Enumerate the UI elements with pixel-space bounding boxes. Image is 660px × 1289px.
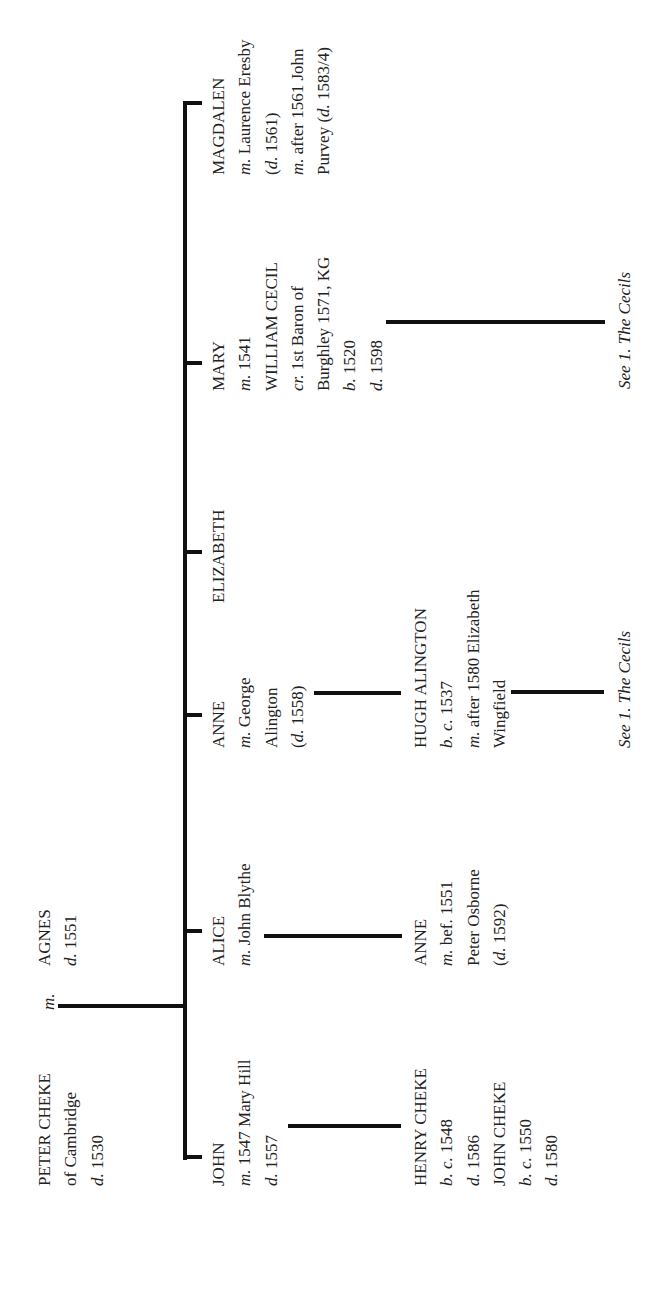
entry-text: 1598 <box>367 340 386 378</box>
entry-line: (d. 1561) <box>259 40 285 175</box>
entry-line: m. after 1561 John <box>285 40 311 175</box>
entry-line: MAGDALEN <box>206 40 232 175</box>
entry-text: Purvey ( <box>314 117 333 175</box>
entry-text: WILLIAM CECIL <box>262 262 281 391</box>
person-mary: MARYm. 1541WILLIAM CECILcr. 1st Baron of… <box>206 257 390 391</box>
person-agnes: AGNESd. 1551 <box>32 909 85 966</box>
entry-text: 1592) <box>490 904 509 948</box>
tick-john <box>183 1155 202 1159</box>
entry-line: AGNES <box>32 909 58 966</box>
abbrev-text: m. <box>437 949 456 966</box>
entry-text: 1548 <box>437 1119 456 1157</box>
entry-text: Peter Osborne <box>464 869 483 966</box>
abbrev-text: d. <box>490 948 509 961</box>
entry-text: ANNE <box>209 701 228 748</box>
entry-line: d. 1598 <box>364 257 390 391</box>
abbrev-text: d. <box>367 378 386 391</box>
entry-text: 1st Baron of <box>288 286 307 374</box>
entry-line: HENRY CHEKE <box>408 1068 434 1186</box>
entry-text: 1586 <box>464 1135 483 1173</box>
entry-line: d. 1580 <box>539 1068 565 1186</box>
entry-line: ALICE <box>206 864 232 966</box>
entry-line: m. George <box>232 677 258 748</box>
reference-see-cecils-hugh[interactable]: See 1. The Cecils <box>612 631 638 748</box>
entry-line: m. John Blythe <box>232 864 258 966</box>
descent-line-hugh <box>511 690 604 694</box>
tick-elizabeth <box>183 550 202 554</box>
sibling-spine <box>183 101 187 1160</box>
entry-text: of Cambridge <box>61 1092 80 1186</box>
entry-line: b. 1520 <box>337 257 363 391</box>
entry-text: 1550 <box>516 1119 535 1157</box>
abbrev-text: d. <box>314 104 333 117</box>
entry-text: PETER CHEKE <box>35 1073 54 1186</box>
reference-see-cecils-mary[interactable]: See 1. The Cecils <box>612 272 638 389</box>
entry-text: after 1561 John <box>288 48 307 158</box>
entry-text: George <box>235 677 254 731</box>
entry-text: ANNE <box>411 919 430 966</box>
entry-text: 1580 <box>542 1135 561 1173</box>
entry-text: John Blythe <box>235 864 254 950</box>
abbrev-text: m. <box>235 158 254 175</box>
entry-line: ELIZABETH <box>206 510 232 603</box>
entry-line: m. bef. 1551 <box>434 869 460 966</box>
entry-line: Burghley 1571, KG <box>311 257 337 391</box>
person-john: JOHNm. 1547 Mary Hilld. 1557 <box>206 1059 285 1186</box>
entry-line: d. 1551 <box>58 909 84 966</box>
abbrev-text: d. <box>61 953 80 966</box>
entry-line: Alington <box>259 677 285 748</box>
entry-text: HENRY CHEKE <box>411 1068 430 1186</box>
marriage-label: m. <box>39 993 59 1010</box>
abbrev-text: b. c. <box>437 1157 456 1186</box>
entry-text: 1520 <box>340 340 359 378</box>
entry-line: Purvey (d. 1583/4) <box>311 40 337 175</box>
person-henry-and-john-cheke: HENRY CHEKEb. c. 1548d. 1586JOHN CHEKEb.… <box>408 1068 566 1186</box>
entry-line: m. Laurence Eresby <box>232 40 258 175</box>
entry-text: JOHN <box>209 1143 228 1186</box>
entry-line: m. after 1580 Elizabeth <box>461 589 487 748</box>
entry-text: 1558) <box>288 686 307 730</box>
entry-line: Peter Osborne <box>461 869 487 966</box>
entry-text: 1547 Mary Hill <box>235 1059 254 1169</box>
descent-line-anne <box>314 691 401 695</box>
entry-line: b. c. 1548 <box>434 1068 460 1186</box>
entry-text: 1583/4) <box>314 47 333 104</box>
abbrev-text: d. <box>464 1173 483 1186</box>
descent-line-mary <box>386 320 605 324</box>
entry-text: 1551 <box>61 915 80 953</box>
entry-text: MAGDALEN <box>209 78 228 175</box>
entry-text: Burghley 1571, KG <box>314 257 333 391</box>
entry-line: m. 1547 Mary Hill <box>232 1059 258 1186</box>
abbrev-text: b. c. <box>516 1157 535 1186</box>
entry-text: AGNES <box>35 909 54 966</box>
entry-line: ANNE <box>206 677 232 748</box>
abbrev-text: d. <box>262 1173 281 1186</box>
entry-line: JOHN <box>206 1059 232 1186</box>
entry-line: (d. 1558) <box>285 677 311 748</box>
abbrev-text: b. <box>340 378 359 391</box>
entry-text: MARY <box>209 341 228 391</box>
entry-text: ALICE <box>209 916 228 966</box>
entry-text: ELIZABETH <box>209 510 228 603</box>
entry-text: bef. 1551 <box>437 881 456 949</box>
entry-line: MARY <box>206 257 232 391</box>
entry-text: 1561) <box>262 113 281 157</box>
person-elizabeth: ELIZABETH <box>206 510 232 603</box>
entry-text: 1541 <box>235 336 254 374</box>
person-peter-cheke: PETER CHEKEof Cambridged. 1530 <box>32 1073 111 1186</box>
abbrev-text: d. <box>262 157 281 170</box>
descent-line-alice <box>264 934 402 938</box>
entry-line: b. c. 1537 <box>434 589 460 748</box>
abbrev-text: d. <box>542 1173 561 1186</box>
person-hugh-alington: HUGH ALINGTONb. c. 1537m. after 1580 Eli… <box>408 589 513 748</box>
entry-line: HUGH ALINGTON <box>408 589 434 748</box>
entry-line: b. c. 1550 <box>513 1068 539 1186</box>
entry-line: WILLIAM CECIL <box>259 257 285 391</box>
tick-anne <box>183 713 202 717</box>
entry-text: Alington <box>262 688 281 748</box>
person-alice: ALICEm. John Blythe <box>206 864 259 966</box>
entry-line: m. 1541 <box>232 257 258 391</box>
abbrev-text: b. c. <box>437 719 456 748</box>
entry-line: of Cambridge <box>58 1073 84 1186</box>
entry-text: Laurence Eresby <box>235 40 254 159</box>
